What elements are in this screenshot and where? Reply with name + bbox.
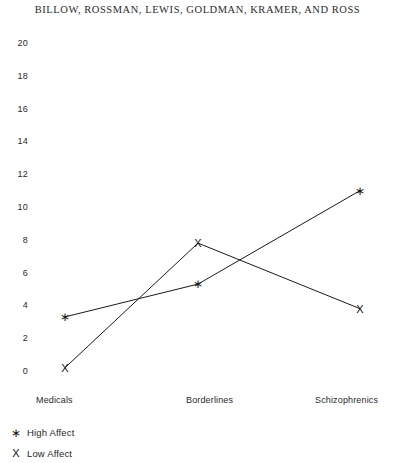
series-line <box>65 243 360 368</box>
low-affect-x-icon: X <box>8 448 24 459</box>
data-point-marker: X <box>194 238 201 249</box>
data-point-marker: ∗ <box>60 311 70 323</box>
data-point-marker: ∗ <box>193 278 203 290</box>
y-tick-label: 4 <box>2 300 28 310</box>
y-tick-label: 10 <box>2 202 28 212</box>
legend-label-high-affect: High Affect <box>27 427 74 438</box>
legend-item-low-affect: X Low Affect <box>8 445 228 462</box>
y-tick-label: 0 <box>2 366 28 376</box>
x-category-label: Borderlines <box>186 395 233 405</box>
chart-legend: ∗ High Affect X Low Affect <box>8 424 228 463</box>
y-tick-label: 2 <box>2 333 28 343</box>
data-point-marker: X <box>61 362 68 373</box>
figure-page: BILLOW, ROSSMAN, LEWIS, GOLDMAN, KRAMER,… <box>0 0 401 463</box>
y-tick-label: 20 <box>2 38 28 48</box>
x-category-label: Medicals <box>36 395 73 405</box>
chart-series-lines <box>0 0 401 400</box>
series-line <box>65 191 360 317</box>
legend-label-low-affect: Low Affect <box>27 448 72 459</box>
x-category-label: Schizophrenics <box>315 395 378 405</box>
data-point-marker: X <box>356 303 363 314</box>
chart-plot-area: 20181614121086420 MedicalsBorderlinesSch… <box>0 0 401 400</box>
high-affect-star-icon: ∗ <box>8 427 24 439</box>
data-point-marker: ∗ <box>355 185 365 197</box>
y-tick-label: 14 <box>2 136 28 146</box>
y-tick-label: 16 <box>2 104 28 114</box>
y-tick-label: 12 <box>2 169 28 179</box>
y-tick-label: 8 <box>2 235 28 245</box>
legend-item-high-affect: ∗ High Affect <box>8 424 228 441</box>
y-tick-label: 18 <box>2 71 28 81</box>
y-tick-label: 6 <box>2 268 28 278</box>
